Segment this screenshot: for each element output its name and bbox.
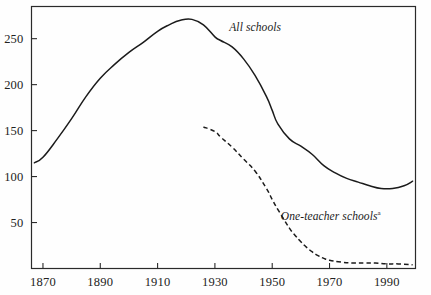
y-tick-label: 100: [0, 169, 24, 184]
chart-figure: 50100150200250 1870189019101930195019701…: [0, 0, 431, 295]
y-tick-label: 150: [0, 123, 24, 138]
footnote-marker: a: [378, 209, 381, 217]
plot-frame-rect: [32, 7, 416, 269]
x-tick-label: 1950: [259, 275, 285, 290]
plot-frame: [32, 7, 416, 269]
chart-plot-area: [0, 0, 431, 295]
series-line-all-schools: [34, 19, 412, 189]
y-tick-label: 50: [0, 215, 24, 230]
series-label-all-schools: All schools: [229, 21, 281, 33]
x-tick-label: 1990: [374, 275, 400, 290]
series-line-one-teacher-schools: [203, 127, 412, 265]
y-tick-label: 250: [0, 31, 24, 46]
x-tick-label: 1870: [30, 275, 56, 290]
series-label-one-teacher-schools: One-teacher schoolsa: [281, 209, 381, 222]
y-axis-ticks: [32, 39, 38, 223]
x-tick-label: 1930: [202, 275, 228, 290]
x-axis-ticks: [43, 263, 387, 269]
x-tick-label: 1970: [317, 275, 343, 290]
x-tick-label: 1890: [87, 275, 113, 290]
y-tick-label: 200: [0, 77, 24, 92]
x-tick-label: 1910: [145, 275, 171, 290]
